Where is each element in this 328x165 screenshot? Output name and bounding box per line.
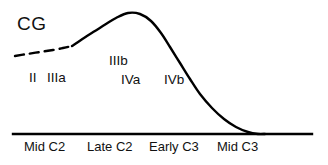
axis-tick-label-late-c2: Late C2 (87, 140, 133, 153)
stage-label-iiib: IIIb (109, 54, 128, 68)
stage-label-ivb: IVb (164, 73, 184, 87)
schematic-curve-figure: CG IIIIIaIIIbIVaIVb Mid C2Late C2Early C… (0, 0, 328, 165)
axis-tick-label-early-c3: Early C3 (149, 140, 199, 153)
stage-label-iiia: IIIa (47, 71, 66, 85)
stage-label-ii: II (29, 71, 37, 85)
series-label-cg: CG (17, 14, 47, 33)
axis-tick-label-mid-c2: Mid C2 (24, 140, 65, 153)
stage-label-iva: IVa (121, 73, 140, 87)
axis-tick-label-mid-c3: Mid C3 (217, 140, 258, 153)
dashed-curve-segment (15, 46, 72, 56)
